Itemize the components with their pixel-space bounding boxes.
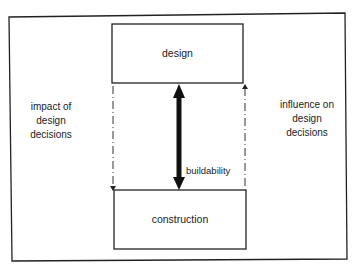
design-label: design [112,46,243,60]
arrow-down-icon [173,177,185,190]
right-annotation-line: influence on [272,98,342,112]
buildability-label: buildability [186,164,242,178]
left-annotation-line: design [18,114,84,128]
left-annotation-line: decisions [18,128,84,142]
left-annotation-line: impact of [18,100,84,114]
right-annotation-line: decisions [272,126,342,140]
left-annotation: impact of design decisions [18,100,84,142]
right-annotation-line: design [272,112,342,126]
right-annotation: influence on design decisions [272,98,342,140]
arrow-up-icon [242,84,248,89]
arrow-up-icon [173,84,185,98]
construction-label: construction [114,212,246,226]
